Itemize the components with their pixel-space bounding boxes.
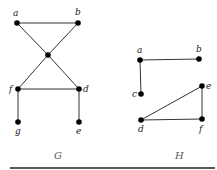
node-label-H-b: b bbox=[196, 44, 202, 54]
captions-layer: GH bbox=[54, 150, 184, 161]
edge-H-a-c bbox=[140, 60, 141, 94]
node-label-G-d: d bbox=[83, 84, 89, 94]
edge-H-d-e bbox=[141, 86, 202, 120]
node-label-G-a: a bbox=[13, 8, 18, 18]
node-H-e bbox=[199, 83, 205, 89]
labels-layer: abfdgeabcedf bbox=[8, 7, 211, 136]
edges-layer bbox=[17, 23, 202, 122]
node-label-G-b: b bbox=[75, 7, 81, 17]
node-G-b bbox=[75, 20, 81, 26]
node-G-a bbox=[14, 20, 20, 26]
graph-caption-G: G bbox=[54, 150, 62, 161]
edge-G-b-center bbox=[48, 23, 78, 55]
node-G-d bbox=[76, 86, 82, 92]
edge-H-d-f bbox=[141, 119, 202, 120]
edge-H-a-b bbox=[140, 59, 199, 60]
node-H-d bbox=[138, 117, 144, 123]
node-label-H-a: a bbox=[137, 45, 142, 55]
node-G-center bbox=[45, 52, 51, 58]
node-label-H-e: e bbox=[206, 81, 211, 91]
node-H-f bbox=[199, 116, 205, 122]
node-H-a bbox=[137, 57, 143, 63]
edge-G-center-f bbox=[18, 55, 48, 89]
node-H-c bbox=[138, 91, 144, 97]
node-G-g bbox=[15, 119, 21, 125]
node-label-H-f: f bbox=[198, 124, 204, 134]
node-label-H-c: c bbox=[132, 89, 137, 99]
graph-caption-H: H bbox=[174, 150, 184, 161]
node-label-G-e: e bbox=[76, 126, 81, 136]
node-G-f bbox=[15, 86, 21, 92]
node-label-G-f: f bbox=[8, 84, 14, 94]
node-H-b bbox=[196, 56, 202, 62]
graph-diagram: abfdgeabcedf GH bbox=[0, 0, 217, 170]
edge-G-a-center bbox=[17, 23, 48, 55]
node-G-e bbox=[76, 119, 82, 125]
edge-G-center-d bbox=[48, 55, 79, 89]
nodes-layer bbox=[14, 20, 205, 125]
node-label-G-g: g bbox=[15, 126, 21, 136]
node-label-H-d: d bbox=[138, 124, 144, 134]
